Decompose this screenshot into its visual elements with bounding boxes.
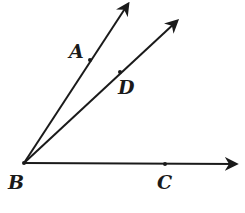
point-c [163,162,167,166]
label-c: C [157,171,172,193]
label-a: A [67,40,84,62]
geometry-diagram: A D C B [0,0,245,213]
ray-ba [24,4,128,163]
point-a [88,58,92,62]
label-b: B [7,171,24,193]
point-d [118,70,122,74]
point-b [22,161,26,165]
ray-bc [24,163,236,164]
angle-figure: A D C B [0,0,245,213]
label-d: D [117,76,135,98]
ray-bd [24,21,177,163]
